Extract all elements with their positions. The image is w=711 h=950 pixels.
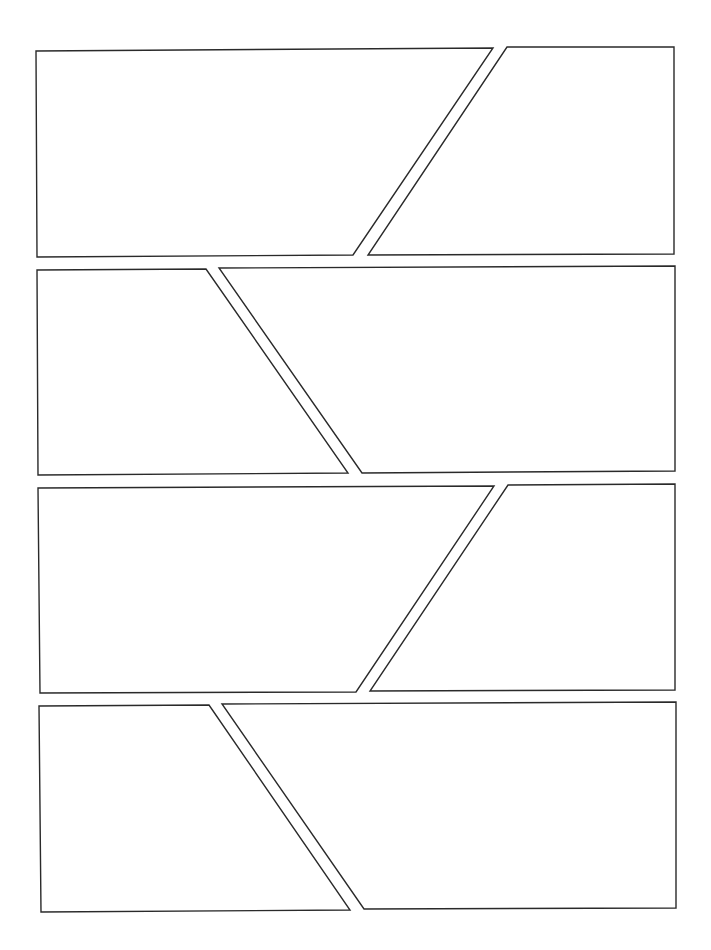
panel-layout bbox=[0, 0, 711, 950]
comic-page-template bbox=[0, 0, 711, 950]
